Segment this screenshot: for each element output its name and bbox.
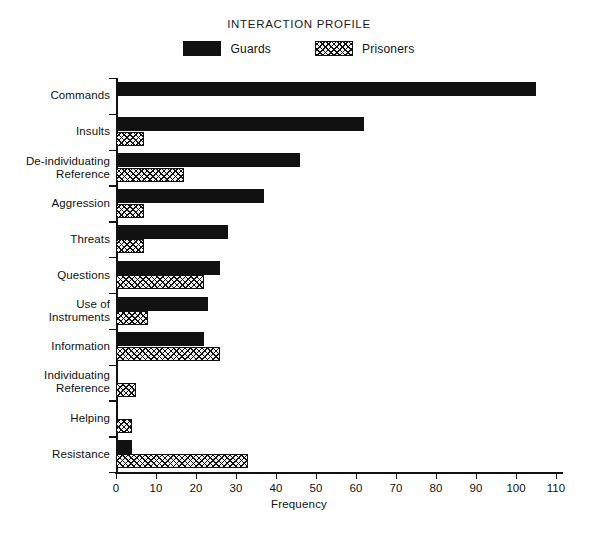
bar-prisoners bbox=[116, 168, 184, 182]
bar-prisoners bbox=[116, 204, 144, 218]
x-axis-tick bbox=[196, 472, 197, 479]
y-axis-tick bbox=[109, 114, 116, 115]
bar-group bbox=[116, 293, 576, 329]
y-axis-category-label-line: Reference bbox=[0, 168, 110, 181]
bar-guards bbox=[116, 332, 204, 346]
x-axis-tick-label: 90 bbox=[470, 482, 483, 494]
y-axis-category-label: Helping bbox=[0, 412, 110, 425]
bar-guards bbox=[116, 153, 300, 167]
y-axis-tick bbox=[109, 150, 116, 151]
y-axis-tick bbox=[109, 257, 116, 258]
y-axis-tick bbox=[109, 185, 116, 186]
x-axis-tick bbox=[316, 472, 317, 479]
legend-label-prisoners: Prisoners bbox=[362, 42, 414, 56]
x-axis-title: Frequency bbox=[0, 498, 598, 510]
x-axis-tick-label: 30 bbox=[230, 482, 243, 494]
y-axis-category-label-line: De-individuating bbox=[0, 155, 110, 168]
y-axis-category-label-line: Insults bbox=[0, 125, 110, 138]
y-axis-tick bbox=[109, 221, 116, 222]
bar-prisoners bbox=[116, 311, 148, 325]
y-axis-category-label: Threats bbox=[0, 233, 110, 246]
bar-group bbox=[116, 150, 576, 186]
y-axis-category-label-line: Threats bbox=[0, 233, 110, 246]
x-axis-tick bbox=[436, 472, 437, 479]
bar-guards bbox=[116, 189, 264, 203]
y-axis-category-label-line: Aggression bbox=[0, 197, 110, 210]
bar-prisoners bbox=[116, 454, 248, 468]
x-axis-tick bbox=[276, 472, 277, 479]
x-axis-tick bbox=[156, 472, 157, 479]
bar-guards bbox=[116, 440, 132, 454]
y-axis-category-labels: CommandsInsultsDe-individuatingReference… bbox=[0, 78, 110, 472]
x-axis-tick-label: 50 bbox=[310, 482, 323, 494]
y-axis-category-label: Information bbox=[0, 340, 110, 353]
bar-guards bbox=[116, 117, 364, 131]
y-axis-tick bbox=[109, 78, 116, 79]
x-axis-tick bbox=[396, 472, 397, 479]
bar-group bbox=[116, 365, 576, 401]
x-axis-tick bbox=[116, 472, 117, 479]
y-axis-category-label-line: Resistance bbox=[0, 448, 110, 461]
x-axis-line bbox=[115, 472, 563, 474]
x-axis-tick-label: 60 bbox=[350, 482, 363, 494]
bar-group bbox=[116, 221, 576, 257]
y-axis-category-label: IndividuatingReference bbox=[0, 369, 110, 395]
y-axis-category-label: De-individuatingReference bbox=[0, 155, 110, 181]
y-axis-category-label: Questions bbox=[0, 269, 110, 282]
x-axis-tick bbox=[476, 472, 477, 479]
x-axis-tick-label: 80 bbox=[430, 482, 443, 494]
bar-guards bbox=[116, 82, 536, 96]
bar-prisoners bbox=[116, 132, 144, 146]
x-axis-tick-label: 70 bbox=[390, 482, 403, 494]
bar-group bbox=[116, 400, 576, 436]
x-axis-tick bbox=[516, 472, 517, 479]
x-axis-tick-label: 100 bbox=[506, 482, 525, 494]
bar-group bbox=[116, 114, 576, 150]
y-axis-category-label: Resistance bbox=[0, 448, 110, 461]
y-axis-category-label-line: Information bbox=[0, 340, 110, 353]
x-axis-tick bbox=[356, 472, 357, 479]
bar-prisoners bbox=[116, 239, 144, 253]
bar-prisoners bbox=[116, 347, 220, 361]
plot-area: 0102030405060708090100110 bbox=[116, 78, 576, 472]
y-axis-category-label-line: Helping bbox=[0, 412, 110, 425]
bar-guards bbox=[116, 225, 228, 239]
y-axis-category-label: Use ofInstruments bbox=[0, 298, 110, 324]
y-axis-category-label-line: Questions bbox=[0, 269, 110, 282]
y-axis-category-label-line: Use of bbox=[0, 298, 110, 311]
y-axis-category-label-line: Commands bbox=[0, 89, 110, 102]
y-axis-category-label: Insults bbox=[0, 125, 110, 138]
bar-prisoners bbox=[116, 419, 132, 433]
legend-swatch-prisoners-icon bbox=[315, 41, 353, 56]
bar-group bbox=[116, 185, 576, 221]
x-axis-tick-label: 110 bbox=[547, 482, 565, 494]
bar-guards bbox=[116, 297, 208, 311]
y-axis-tick bbox=[109, 472, 116, 473]
x-axis-tick-label: 20 bbox=[190, 482, 203, 494]
chart-legend: Guards Prisoners bbox=[0, 41, 598, 56]
x-axis-tick bbox=[556, 472, 557, 479]
y-axis-tick bbox=[109, 293, 116, 294]
interaction-profile-chart: INTERACTION PROFILE Guards Prisoners Com… bbox=[0, 0, 598, 536]
y-axis-tick bbox=[109, 436, 116, 437]
y-axis-category-label: Aggression bbox=[0, 197, 110, 210]
bar-prisoners bbox=[116, 383, 136, 397]
bar-group bbox=[116, 257, 576, 293]
y-axis-category-label-line: Instruments bbox=[0, 311, 110, 324]
y-axis-tick bbox=[109, 400, 116, 401]
y-axis-category-label: Commands bbox=[0, 89, 110, 102]
chart-title: INTERACTION PROFILE bbox=[0, 18, 598, 30]
x-axis-tick-label: 0 bbox=[113, 482, 119, 494]
legend-swatch-guards-icon bbox=[183, 41, 221, 56]
bar-group bbox=[116, 436, 576, 472]
legend-label-guards: Guards bbox=[230, 42, 271, 56]
y-axis-tick bbox=[109, 365, 116, 366]
legend-entry-guards: Guards bbox=[183, 41, 271, 56]
x-axis-tick-label: 10 bbox=[150, 482, 163, 494]
bar-guards bbox=[116, 261, 220, 275]
legend-entry-prisoners: Prisoners bbox=[315, 41, 414, 56]
x-axis-tick-label: 40 bbox=[270, 482, 283, 494]
bar-group bbox=[116, 329, 576, 365]
bar-group bbox=[116, 78, 576, 114]
y-axis-tick bbox=[109, 329, 116, 330]
